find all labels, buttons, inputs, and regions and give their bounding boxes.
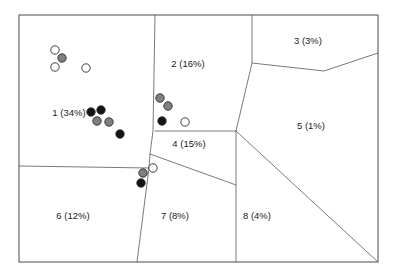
data-point-open [51,63,59,71]
data-point-gray [164,102,172,110]
data-point-black [158,117,166,125]
data-point-black [116,130,124,138]
region-label-3: 3 (3%) [294,35,322,46]
data-point-black [87,108,95,116]
data-point-open [51,46,59,54]
data-point-gray [105,118,113,126]
region-boundary-8 [19,166,149,168]
data-point-open [149,164,157,172]
voronoi-region-figure: 1 (34%)2 (16%)3 (3%)4 (15%)5 (1%)6 (12%)… [0,0,397,277]
region-boundary-5 [150,154,236,185]
region-label-5: 5 (1%) [297,120,325,131]
region-boundary-1 [149,15,155,168]
data-point-gray [139,169,147,177]
region-label-7: 7 (8%) [161,210,189,221]
data-point-gray [93,117,101,125]
region-boundary-2 [236,15,252,131]
data-point-open [82,64,90,72]
region-label-8: 8 (4%) [243,210,271,221]
data-point-gray [58,54,66,62]
region-boundary-3 [252,53,378,71]
data-point-gray [156,94,164,102]
region-label-6: 6 (12%) [56,210,89,221]
data-point-black [137,179,145,187]
plot-canvas: 1 (34%)2 (16%)3 (3%)4 (15%)5 (1%)6 (12%)… [0,0,397,277]
region-label-4: 4 (15%) [172,138,205,149]
data-point-open [181,118,189,126]
region-label-1: 1 (34%) [52,107,85,118]
data-point-black [97,106,105,114]
region-labels: 1 (34%)2 (16%)3 (3%)4 (15%)5 (1%)6 (12%)… [52,35,325,221]
region-label-2: 2 (16%) [171,58,204,69]
region-boundary-7 [236,131,378,262]
